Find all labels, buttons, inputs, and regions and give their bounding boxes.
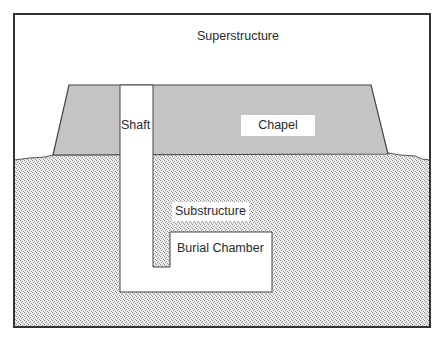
superstructure-mastaba	[53, 85, 388, 155]
tomb-cross-section-diagram	[0, 0, 441, 338]
superstructure-label: Superstructure	[197, 30, 279, 43]
burial-chamber-label: Burial Chamber	[177, 242, 264, 255]
substructure-label: Substructure	[172, 202, 249, 221]
chapel-label: Chapel	[241, 115, 315, 136]
shaft-label: Shaft	[121, 119, 150, 132]
